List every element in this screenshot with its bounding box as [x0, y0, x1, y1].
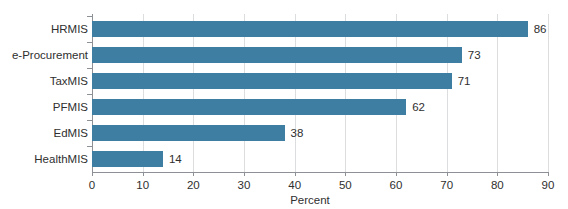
x-axis-line — [92, 172, 549, 173]
gridline — [295, 14, 296, 172]
bar — [92, 151, 163, 167]
y-tick — [87, 42, 92, 43]
bar — [92, 73, 452, 89]
gridline — [244, 14, 245, 172]
category-label: HRMIS — [51, 21, 88, 37]
x-axis-title-text: Percent — [290, 194, 330, 206]
x-tick — [295, 172, 296, 176]
x-tick-label: 10 — [136, 179, 149, 191]
x-tick — [345, 172, 346, 176]
x-tick — [244, 172, 245, 176]
bar-value-label: 86 — [534, 21, 547, 37]
bar-value-label: 38 — [291, 125, 304, 141]
x-tick-label: 70 — [440, 179, 453, 191]
plot-area — [92, 14, 548, 172]
x-tick-label: 50 — [339, 179, 352, 191]
x-tick-label: 80 — [491, 179, 504, 191]
gridline — [345, 14, 346, 172]
bar-value-label: 73 — [468, 47, 481, 63]
bar-value-label: 71 — [458, 73, 471, 89]
x-tick-label: 60 — [390, 179, 403, 191]
bar — [92, 21, 528, 37]
gridline — [497, 14, 498, 172]
x-tick-label: 30 — [238, 179, 251, 191]
bar-value-label: 62 — [412, 99, 425, 115]
category-label: TaxMIS — [50, 73, 88, 89]
x-tick-label: 40 — [288, 179, 301, 191]
category-label: PFMIS — [53, 99, 88, 115]
category-label: e-Procurement — [12, 47, 88, 63]
y-axis-line — [92, 14, 93, 172]
x-tick-label: 0 — [89, 179, 95, 191]
chart-title-clipped: ............ — [0, 0, 568, 3]
y-tick — [87, 120, 92, 121]
x-tick — [143, 172, 144, 176]
x-tick — [92, 172, 93, 176]
y-tick — [87, 146, 92, 147]
bar — [92, 125, 285, 141]
gridline — [143, 14, 144, 172]
x-tick — [548, 172, 549, 176]
bar-value-label: 14 — [169, 151, 182, 167]
x-tick — [396, 172, 397, 176]
bar — [92, 99, 406, 115]
x-tick-label: 90 — [542, 179, 555, 191]
gridline — [396, 14, 397, 172]
category-label: HealthMIS — [34, 151, 88, 167]
category-label: EdMIS — [53, 125, 88, 141]
x-tick — [193, 172, 194, 176]
bar — [92, 47, 462, 63]
x-tick — [497, 172, 498, 176]
gridline — [193, 14, 194, 172]
gridline — [447, 14, 448, 172]
y-tick — [87, 68, 92, 69]
y-tick — [87, 94, 92, 95]
y-tick — [87, 16, 92, 17]
x-tick — [447, 172, 448, 176]
x-axis-title: Percent — [0, 194, 568, 206]
bar-chart: ............ 867371623814 HRMISe-Procure… — [0, 0, 568, 209]
x-tick-label: 20 — [187, 179, 200, 191]
gridline — [548, 14, 549, 172]
